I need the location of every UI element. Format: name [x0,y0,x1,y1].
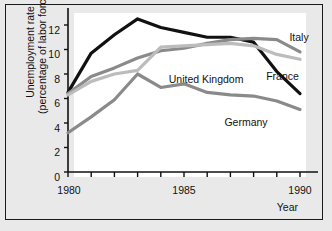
series-line-france [68,43,300,94]
series-line-germany [68,74,300,133]
chart-plot-svg [0,0,332,231]
series-layer [68,19,300,133]
figure-container: Unemployment rate (percentage of labor f… [0,0,332,231]
